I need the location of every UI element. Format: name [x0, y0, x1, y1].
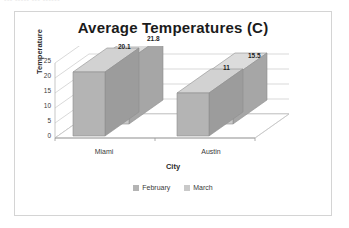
y-tick-label: 15 [37, 87, 51, 94]
top-edge-text-fragment: ▪▪▪ ▪▪▪▪▪ ▪▪▪ ▪▪▪▪▪▪ [4, 0, 60, 3]
data-label-miami-february: 20.1 [118, 43, 131, 50]
y-tick-label: 5 [37, 117, 51, 124]
legend-item-february[interactable]: February [133, 184, 170, 191]
data-label-austin-february: 11 [223, 64, 230, 71]
plot-area [53, 46, 293, 164]
y-tick-label: 0 [37, 132, 51, 139]
chart-legend: February March [15, 184, 331, 191]
category-label-miami: Miami [74, 148, 134, 155]
y-tick-label: 10 [37, 102, 51, 109]
chart-title: Average Temperatures (C) [15, 19, 331, 36]
legend-swatch-icon [133, 185, 139, 191]
data-label-miami-march: 21.8 [147, 35, 160, 42]
legend-item-march[interactable]: March [184, 184, 212, 191]
y-tick-label: 20 [37, 72, 51, 79]
legend-label: March [193, 184, 212, 191]
legend-swatch-icon [184, 185, 190, 191]
chart-frame: Average Temperatures (C) Temperature 0 5… [14, 11, 332, 216]
category-label-austin: Austin [181, 148, 241, 155]
y-tick-label: 25 [37, 57, 51, 64]
x-axis-title: City [15, 162, 331, 171]
legend-label: February [142, 184, 170, 191]
data-label-austin-march: 15.5 [248, 52, 261, 59]
